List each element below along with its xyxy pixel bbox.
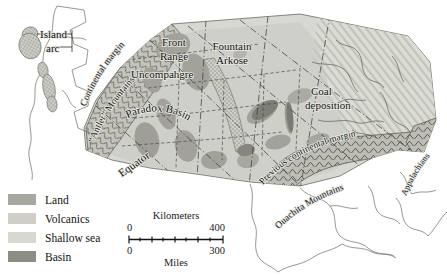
scale-bar-svg [126, 234, 226, 245]
legend-label-basin: Basin [45, 251, 71, 263]
label-uncompahgre: Uncompahgre [131, 68, 193, 80]
legend-label-land: Land [45, 194, 69, 206]
legend-label-volcanics: Volcanics [45, 213, 90, 225]
scale-km-max: 400 [209, 222, 225, 234]
scale-caption-miles: Miles [126, 257, 226, 269]
label-island-arc-line2: arc [46, 42, 60, 54]
legend-item-basin: Basin [8, 247, 116, 266]
label-fountain-arkose-line1: Fountain [212, 40, 252, 52]
scale-numbers-km: 0 400 [126, 222, 226, 234]
scale-mi-max: 300 [209, 245, 225, 257]
legend-swatch-land [8, 194, 36, 205]
label-front-range-line1: Front [162, 36, 186, 48]
legend-item-volcanics: Volcanics [8, 209, 116, 228]
legend-item-shallow-sea: Shallow sea [8, 228, 116, 247]
label-front-range-line2: Range [160, 50, 188, 62]
map-legend: Land Volcanics Shallow sea Basin [8, 190, 116, 266]
scale-numbers-miles: 0 300 [126, 245, 226, 257]
label-coal-deposition-line1: Coal [311, 85, 332, 97]
scale-km-min: 0 [127, 222, 132, 234]
map-scale-bar: Kilometers 0 400 0 300 Miles [126, 210, 226, 269]
legend-item-land: Land [8, 190, 116, 209]
legend-swatch-basin [8, 251, 36, 262]
scale-caption-kilometers: Kilometers [126, 210, 226, 222]
label-island-arc-line1: Island [40, 28, 67, 40]
legend-swatch-volcanics [8, 213, 36, 224]
label-coal-deposition-line2: deposition [305, 99, 351, 111]
scale-bar-graphic [126, 234, 226, 245]
scale-mi-min: 0 [127, 245, 132, 257]
legend-label-shallow-sea: Shallow sea [45, 232, 100, 244]
label-fountain-arkose-line2: Arkose [216, 54, 248, 66]
legend-swatch-shallow-sea [8, 232, 36, 243]
